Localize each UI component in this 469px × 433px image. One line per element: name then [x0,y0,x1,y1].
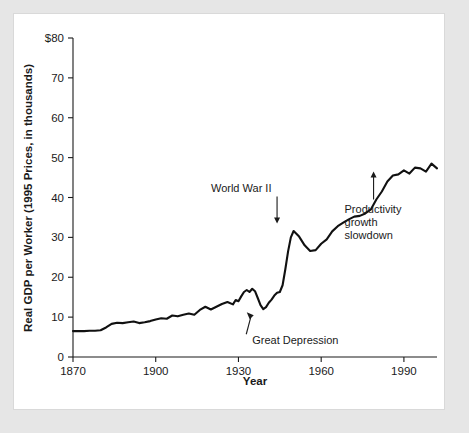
figure-panel [13,13,445,410]
figure-root: 010203040506070$80 18701900193019601990 … [0,0,469,433]
